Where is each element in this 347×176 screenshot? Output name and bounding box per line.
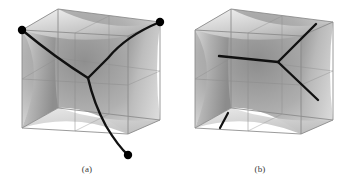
panel-b: (b) Same cube and surface; the network i… bbox=[173, 0, 347, 176]
caption-a: (a) bbox=[0, 164, 174, 174]
panel-a-graphic bbox=[0, 0, 174, 176]
vertex-dot-top-left bbox=[18, 26, 26, 34]
panel-a: (a) Cube enclosing a concave hyperbolic … bbox=[0, 0, 174, 176]
caption-b: (b) bbox=[173, 164, 347, 174]
vertex-dot-top-right bbox=[156, 18, 164, 26]
vertex-dot-bottom bbox=[124, 151, 132, 159]
cube-a-surface bbox=[22, 9, 160, 134]
figure-root: (a) Cube enclosing a concave hyperbolic … bbox=[0, 0, 347, 176]
panel-b-graphic bbox=[173, 0, 347, 176]
